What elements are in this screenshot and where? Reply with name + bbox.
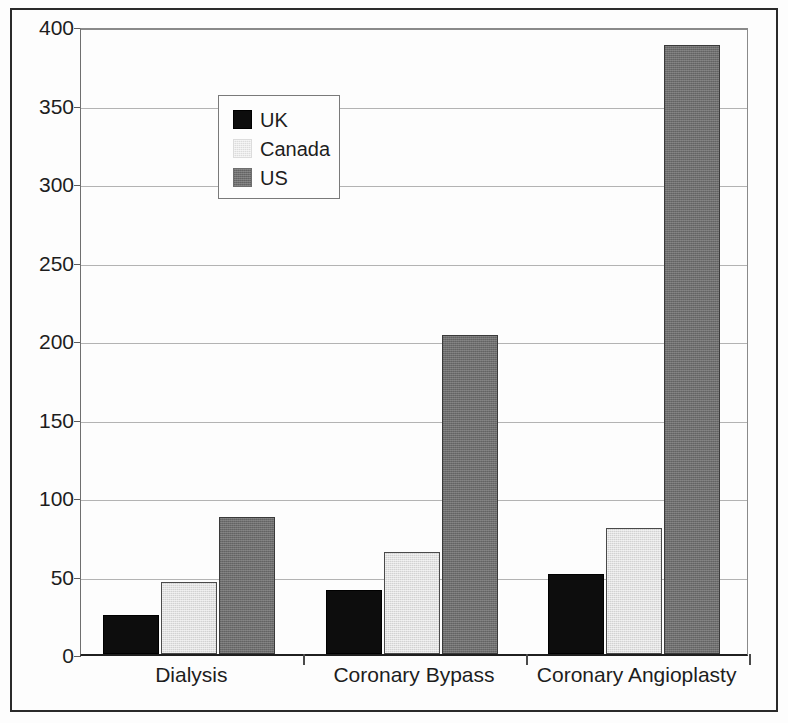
gridline-350 — [81, 108, 747, 109]
y-tick-label-50: 50 — [12, 567, 74, 588]
chart-figure: 050100150200250300350400 DialysisCoronar… — [0, 0, 788, 723]
y-tick-label-150: 150 — [12, 410, 74, 431]
gridline-250 — [81, 265, 747, 266]
x-axis-label-coronary-angioplasty: Coronary Angioplasty — [525, 664, 748, 685]
y-tick-label-350: 350 — [12, 96, 74, 117]
y-tick-label-300: 300 — [12, 174, 74, 195]
legend-label-uk: UK — [260, 110, 288, 130]
legend-label-canada: Canada — [260, 139, 330, 159]
legend-label-us: US — [260, 168, 288, 188]
y-tick-mark-0 — [74, 656, 81, 657]
x-axis-label-coronary-bypass: Coronary Bypass — [303, 664, 526, 685]
legend-item-uk[interactable]: UK — [233, 105, 339, 134]
y-tick-label-200: 200 — [12, 331, 74, 352]
y-tick-label-100: 100 — [12, 488, 74, 509]
x-tick-mark-2 — [749, 654, 751, 665]
bar-us-coronary-bypass — [442, 335, 498, 654]
y-tick-label-250: 250 — [12, 253, 74, 274]
bar-uk-dialysis — [103, 615, 159, 654]
gridline-300 — [81, 186, 747, 187]
legend-item-canada[interactable]: Canada — [233, 134, 339, 163]
x-axis-label-dialysis: Dialysis — [80, 664, 303, 685]
legend-swatch-uk-icon — [233, 110, 252, 129]
gridline-100 — [81, 500, 747, 501]
legend-swatch-canada-icon — [233, 139, 252, 158]
bar-canada-coronary-bypass — [384, 552, 440, 654]
gridline-400 — [81, 29, 747, 30]
bar-us-dialysis — [219, 517, 275, 654]
legend-item-us[interactable]: US — [233, 163, 339, 192]
gridline-200 — [81, 343, 747, 344]
chart-legend[interactable]: UKCanadaUS — [218, 95, 340, 199]
gridline-150 — [81, 422, 747, 423]
bar-uk-coronary-angioplasty — [548, 574, 604, 654]
y-tick-label-0: 0 — [12, 645, 74, 666]
y-tick-label-400: 400 — [12, 17, 74, 38]
plot-area — [80, 28, 748, 656]
bar-canada-dialysis — [161, 582, 217, 654]
bar-uk-coronary-bypass — [326, 590, 382, 654]
bar-canada-coronary-angioplasty — [606, 528, 662, 654]
legend-swatch-us-icon — [233, 168, 252, 187]
bar-us-coronary-angioplasty — [664, 45, 720, 654]
